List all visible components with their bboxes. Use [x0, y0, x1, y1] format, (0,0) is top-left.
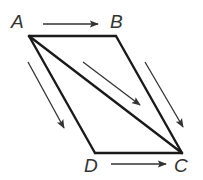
parallelogram-diagram: ABCD: [0, 0, 203, 180]
vertex-label-c: C: [174, 155, 188, 176]
arrow-ad-icon: [28, 62, 64, 128]
parallelogram-edges: [29, 36, 182, 153]
edge-ac: [29, 36, 182, 153]
edge-da: [29, 36, 95, 153]
arrow-bc-icon: [145, 62, 183, 127]
vertex-label-b: B: [110, 11, 123, 32]
vertex-label-d: D: [84, 155, 98, 176]
vertex-label-a: A: [10, 11, 24, 32]
